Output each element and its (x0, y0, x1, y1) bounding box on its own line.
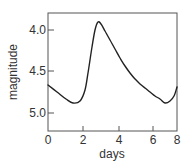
y-tick-label: 4.5 (29, 64, 46, 78)
x-tick-label: 8 (174, 133, 181, 147)
x-axis-label: days (99, 147, 124, 161)
y-axis-ticks: 4.04.55.0 (29, 23, 54, 120)
light-curve-chart: 02468 4.04.55.0 days magnitude (0, 0, 188, 165)
y-axis-label: magnitude (6, 44, 20, 100)
x-axis-ticks: 02468 (45, 126, 181, 147)
x-tick-label: 6 (150, 133, 157, 147)
x-tick-label: 0 (45, 133, 52, 147)
plot-frame (48, 13, 177, 131)
y-tick-label: 5.0 (29, 106, 46, 120)
light-curve-line (48, 22, 177, 103)
x-tick-label: 4 (116, 133, 123, 147)
y-tick-label: 4.0 (29, 23, 46, 37)
x-tick-label: 2 (80, 133, 87, 147)
